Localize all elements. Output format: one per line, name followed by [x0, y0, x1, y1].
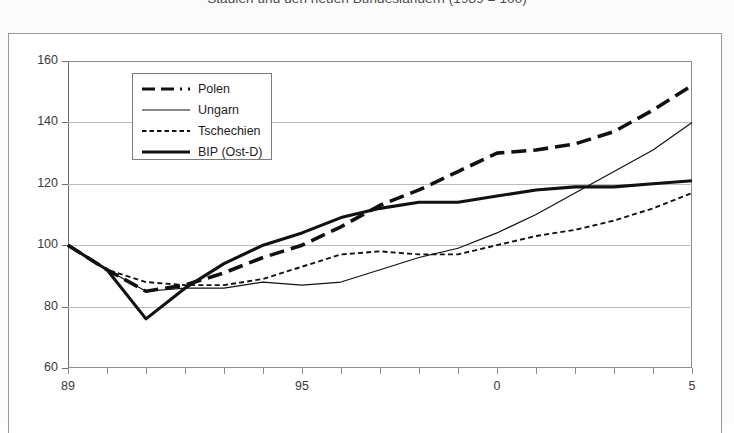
x-axis-tick [536, 368, 537, 374]
x-axis-tick [614, 368, 615, 374]
thick-dashed-line-icon [140, 83, 192, 95]
y-axis-tick-label: 100 [12, 237, 58, 251]
thin-solid-line-icon [140, 104, 192, 116]
legend-label: BIP (Ost-D) [198, 145, 262, 159]
x-axis-tick [575, 368, 576, 374]
x-axis-tick [497, 368, 498, 374]
y-axis-tick-label: 60 [12, 360, 58, 374]
x-axis-tick [224, 368, 225, 374]
fine-dashed-line-icon [140, 125, 192, 137]
x-axis-tick-label: 0 [477, 379, 517, 393]
y-axis-tick [62, 307, 68, 308]
y-axis-tick [62, 122, 68, 123]
chart-legend: Polen Ungarn Tschechien [132, 73, 272, 160]
legend-item-polen[interactable]: Polen [133, 78, 271, 99]
y-axis-tick [62, 245, 68, 246]
x-axis-tick [692, 368, 693, 374]
x-axis-tick-label: 95 [282, 379, 322, 393]
legend-label: Tschechien [198, 124, 261, 138]
x-axis-tick-label: 5 [672, 379, 712, 393]
x-axis-tick-label: 89 [48, 379, 88, 393]
legend-label: Ungarn [198, 103, 239, 117]
y-axis-tick-label: 80 [12, 299, 58, 313]
legend-item-bip-ost-d[interactable]: BIP (Ost-D) [133, 141, 271, 162]
gridline [68, 307, 692, 308]
y-axis-tick-label: 160 [12, 53, 58, 67]
x-axis-tick [68, 368, 69, 374]
x-axis-tick [263, 368, 264, 374]
gridline [68, 245, 692, 246]
x-axis-tick [302, 368, 303, 374]
x-axis-tick [107, 368, 108, 374]
legend-label: Polen [198, 82, 230, 96]
x-axis-tick [185, 368, 186, 374]
x-axis-tick [419, 368, 420, 374]
gridline [68, 184, 692, 185]
x-axis-tick [458, 368, 459, 374]
y-axis-tick-label: 120 [12, 176, 58, 190]
x-axis-tick [341, 368, 342, 374]
y-axis-tick [62, 184, 68, 185]
y-axis-tick-label: 140 [12, 114, 58, 128]
x-axis-tick [380, 368, 381, 374]
y-axis-tick [62, 61, 68, 62]
x-axis-tick [146, 368, 147, 374]
legend-item-ungarn[interactable]: Ungarn [133, 99, 271, 120]
thick-solid-line-icon [140, 146, 192, 158]
x-axis-tick [653, 368, 654, 374]
legend-item-tschechien[interactable]: Tschechien [133, 120, 271, 141]
